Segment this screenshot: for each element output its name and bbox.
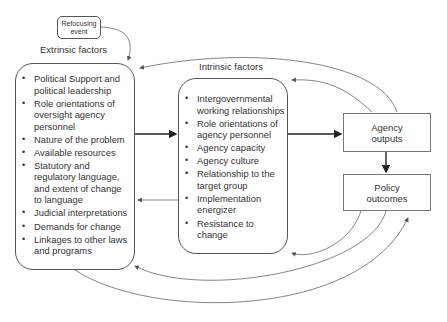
refocusing-event-box: Refocusing event: [57, 16, 101, 39]
extrinsic-item: Judicial interpretations: [18, 207, 130, 219]
extrinsic-item: Role orientations of oversight agency pe…: [18, 98, 130, 133]
agency-outputs-line1: Agency: [371, 122, 403, 133]
intrinsic-item: Implementation energizer: [181, 193, 285, 216]
agency-outputs-line2: outputs: [371, 133, 402, 144]
intrinsic-item: Agency culture: [181, 155, 285, 167]
extrinsic-factors-box: Political Support and political leadersh…: [15, 63, 135, 270]
extrinsic-item: Demands for change: [18, 221, 130, 233]
agency-outputs-box: Agency outputs: [343, 113, 431, 152]
refocusing-event-line2: event: [58, 28, 100, 36]
extrinsic-item: Nature of the problem: [18, 134, 130, 146]
refocusing-event-line1: Refocusing: [58, 20, 100, 28]
intrinsic-factors-title: Intrinsic factors: [199, 61, 263, 72]
extrinsic-factors-list: Political Support and political leadersh…: [18, 73, 130, 257]
extrinsic-item: Linkages to other laws and programs: [18, 234, 130, 257]
intrinsic-item: Agency capacity: [181, 142, 285, 154]
intrinsic-item: Relationship to the target group: [181, 168, 285, 191]
intrinsic-factors-list: Intergovernmental working relationships …: [181, 93, 285, 241]
intrinsic-item: Role orientations of agency personnel: [181, 118, 285, 141]
extrinsic-item: Political Support and political leadersh…: [18, 73, 130, 96]
extrinsic-item: Available resources: [18, 147, 130, 159]
policy-outcomes-box: Policy outcomes: [343, 174, 431, 211]
intrinsic-item: Intergovernmental working relationships: [181, 93, 285, 116]
intrinsic-factors-box: Intergovernmental working relationships …: [178, 78, 288, 254]
diagram-canvas: Refocusing event Extrinsic factors Polit…: [0, 0, 447, 322]
extrinsic-item: Statutory and regulatory language, and e…: [18, 160, 130, 206]
intrinsic-item: Resistance to change: [181, 218, 285, 241]
extrinsic-factors-title: Extrinsic factors: [40, 44, 107, 55]
policy-outcomes-line1: Policy: [374, 182, 399, 193]
policy-outcomes-line2: outcomes: [366, 193, 407, 204]
